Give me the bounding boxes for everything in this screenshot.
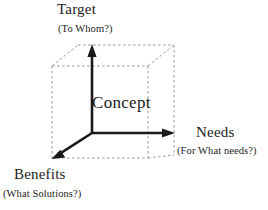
cube-edge-diag-bottom-right [148, 155, 174, 158]
axis-sublabel-benefits: (What Solutions?) [3, 188, 81, 199]
axis-label-benefits: Benefits [14, 167, 66, 183]
axis-sublabel-target: (To Whom?) [58, 23, 113, 34]
concept-cube-diagram: Concept Target (To Whom?) Needs (For Wha… [0, 0, 268, 210]
axis-sublabel-needs: (For What needs?) [177, 145, 257, 156]
axis-arrowhead-target [87, 44, 96, 57]
cube-edge-diag-top-right [148, 45, 174, 66]
axis-arrowhead-needs [162, 128, 175, 137]
axis-line-benefits [60, 133, 93, 154]
axis-label-needs: Needs [196, 125, 235, 141]
center-label-concept: Concept [92, 94, 151, 112]
axis-label-target: Target [57, 2, 96, 18]
cube-edge-diag-top-left [52, 45, 78, 66]
